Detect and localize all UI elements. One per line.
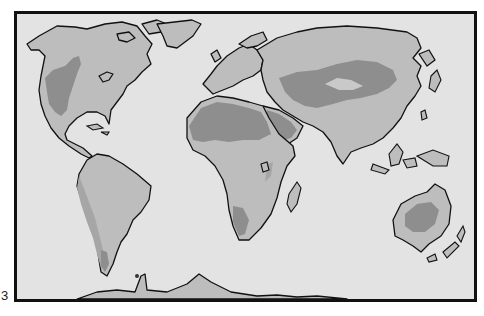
world-map bbox=[14, 11, 477, 302]
europe bbox=[203, 32, 267, 94]
australia bbox=[393, 184, 465, 262]
north-america bbox=[27, 20, 201, 158]
map-canvas bbox=[17, 14, 474, 299]
south-america bbox=[77, 154, 151, 278]
antarctica bbox=[77, 274, 347, 299]
southeast-asia bbox=[371, 144, 449, 174]
figure-label: 3 bbox=[1, 289, 8, 302]
